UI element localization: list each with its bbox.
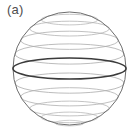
latitude-lines-group <box>15 14 124 126</box>
equator-ellipse <box>13 58 126 79</box>
latitude-ellipse-1 <box>30 21 110 36</box>
latitude-ellipse-5 <box>21 88 119 106</box>
latitude-ellipse-2 <box>21 31 119 49</box>
sphere-diagram <box>0 0 140 132</box>
figure-panel: (a) <box>0 0 140 132</box>
latitude-ellipse-6 <box>30 101 110 116</box>
